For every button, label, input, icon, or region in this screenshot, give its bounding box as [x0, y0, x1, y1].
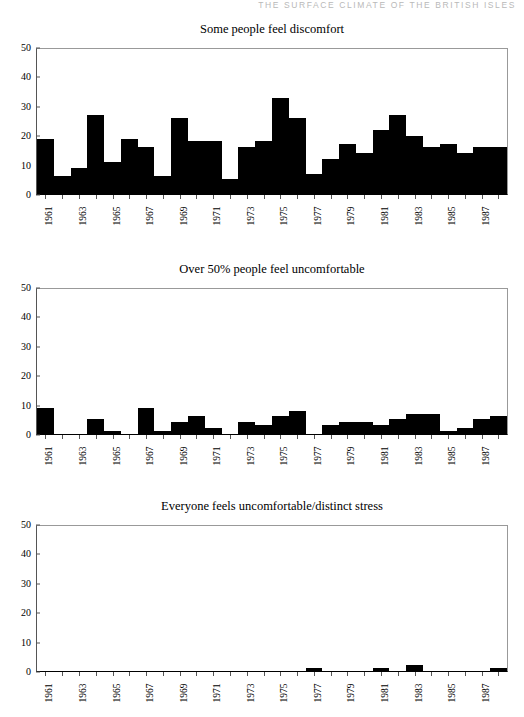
x-axis-tick-mark [322, 195, 339, 201]
x-axis-tick-mark [389, 195, 406, 201]
bar-cell [272, 288, 289, 434]
x-axis-tick-mark [37, 195, 54, 201]
x-axis-label-cell: 1983 [406, 679, 423, 717]
x-axis-label-cell: 1963 [71, 679, 88, 717]
bar [222, 179, 239, 194]
bar-cell [104, 525, 121, 671]
y-axis-tick-label: 50 [21, 520, 36, 530]
bar [490, 416, 507, 434]
x-axis-label-cell [188, 442, 205, 482]
x-axis-label-cell: 1981 [373, 442, 390, 482]
x-axis-label-cell: 1977 [306, 442, 323, 482]
x-axis-label-cell: 1985 [440, 202, 457, 242]
x-axis-label-cell [121, 202, 138, 242]
x-axis-label-cell: 1979 [339, 202, 356, 242]
x-axis-label-cell [87, 679, 104, 717]
x-axis-label-cell [222, 442, 239, 482]
bar [339, 422, 356, 434]
bar-cell [306, 288, 323, 434]
x-axis-label-cell: 1965 [104, 679, 121, 717]
bar-cell [205, 288, 222, 434]
bar [71, 168, 88, 194]
chart-title: Some people feel discomfort [0, 22, 524, 36]
bar-cell [104, 288, 121, 434]
bar [457, 428, 474, 434]
x-axis-label-cell [154, 442, 171, 482]
chart-title: Everyone feels uncomfortable/distinct st… [0, 499, 524, 513]
bar [457, 153, 474, 194]
x-axis-label-cell [121, 442, 138, 482]
x-axis-label-cell: 1975 [272, 442, 289, 482]
bar-cell [490, 48, 507, 194]
axis-area: 01020304050 [36, 525, 508, 672]
bar [356, 153, 373, 194]
x-axis-tick-mark [306, 672, 323, 678]
bar [205, 428, 222, 434]
x-axis-tick-mark [272, 435, 289, 441]
x-axis-label-cell: 1971 [205, 679, 222, 717]
x-axis-label-cell: 1969 [171, 202, 188, 242]
x-axis-tick-mark [457, 195, 474, 201]
bar [37, 408, 54, 434]
x-axis-label-cell: 1965 [104, 202, 121, 242]
x-axis-label-cell [121, 679, 138, 717]
x-axis-tick-mark [171, 195, 188, 201]
bar-cell [356, 48, 373, 194]
x-axis-tick-mark [356, 435, 373, 441]
bar-cell [423, 525, 440, 671]
bar-cell [71, 288, 88, 434]
bar-cell [71, 525, 88, 671]
x-axis-label-cell: 1985 [440, 442, 457, 482]
x-axis-tick-mark [406, 435, 423, 441]
x-axis-tick-mark [238, 195, 255, 201]
x-axis-tick-mark [490, 435, 507, 441]
bar [473, 147, 490, 194]
y-axis-tick-label: 0 [26, 190, 36, 200]
bar [423, 414, 440, 434]
x-axis-tick-mark [423, 435, 440, 441]
x-axis-tick-mark [389, 672, 406, 678]
bar-cell [104, 48, 121, 194]
bar-cell [255, 48, 272, 194]
chart-panel-some-people-feel-discomfort: Some people feel discomfort 01020304050 … [0, 22, 524, 192]
bar [389, 115, 406, 194]
x-axis-label-cell [356, 679, 373, 717]
x-axis-label-cell: 1987 [473, 679, 490, 717]
bar-cell [54, 48, 71, 194]
x-axis-tick-mark [339, 672, 356, 678]
bar [473, 419, 490, 434]
x-axis-label-cell [322, 679, 339, 717]
x-axis-label-cell [457, 679, 474, 717]
x-axis-label-cell [423, 442, 440, 482]
bar-cell [339, 288, 356, 434]
x-axis-tick-mark [54, 195, 71, 201]
x-axis-label-cell: 1969 [171, 442, 188, 482]
bar-cell [457, 48, 474, 194]
bar-cell [121, 525, 138, 671]
x-axis-label-cell: 1967 [138, 202, 155, 242]
x-axis-label-cell: 1981 [373, 679, 390, 717]
x-axis-tick-mark [490, 672, 507, 678]
x-axis-tick-mark [171, 435, 188, 441]
bar-cell [406, 48, 423, 194]
x-axis-tick-mark [104, 195, 121, 201]
bar-cell [440, 525, 457, 671]
x-axis-label-cell [490, 202, 507, 242]
x-axis-tick-mark [238, 672, 255, 678]
y-axis-tick-label: 0 [26, 667, 36, 677]
bar-cell [339, 525, 356, 671]
bar [389, 419, 406, 434]
x-axis-tick-mark [205, 195, 222, 201]
axis-area: 01020304050 [36, 48, 508, 195]
x-axis-tick-mark [272, 672, 289, 678]
x-axis-tick-mark [373, 195, 390, 201]
x-axis-tick-mark [406, 672, 423, 678]
bar [121, 139, 138, 194]
x-axis-label-cell [289, 442, 306, 482]
x-axis-label-cell: 1979 [339, 442, 356, 482]
bar-cell [255, 525, 272, 671]
bar-cell [306, 48, 323, 194]
bar [339, 144, 356, 194]
bar [272, 98, 289, 194]
y-axis-tick-label: 10 [21, 161, 36, 171]
